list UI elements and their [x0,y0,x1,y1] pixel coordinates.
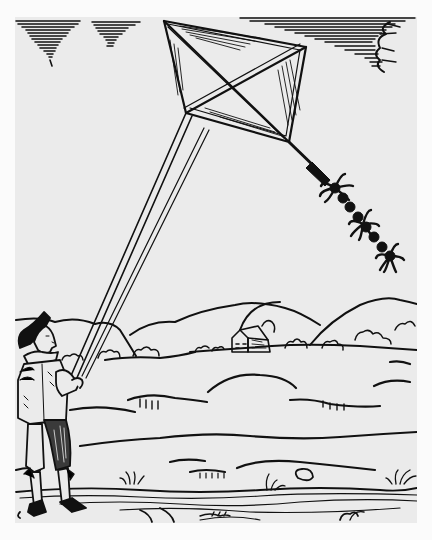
cloud-left [16,21,80,66]
kite-tail [289,142,404,272]
woodcut-frame: man flying a diamond-shaped kite over a … [15,17,417,523]
man-flying-kite [18,312,86,516]
cloud-middle [92,22,140,46]
kite [164,21,306,142]
woodcut-illustration [15,17,417,523]
bushes [62,321,415,360]
hills [16,298,417,360]
kite-string [70,113,209,380]
